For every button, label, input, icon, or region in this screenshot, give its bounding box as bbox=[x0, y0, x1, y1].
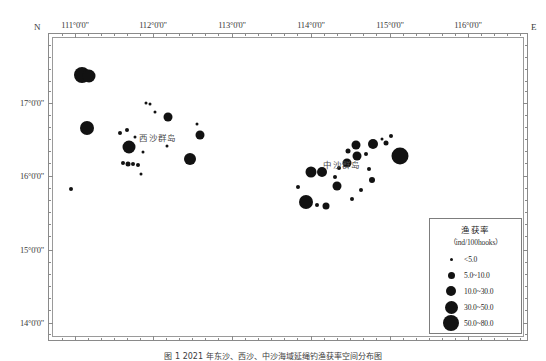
catch-rate-marker bbox=[350, 197, 354, 201]
tick-minor-bottom bbox=[271, 338, 272, 341]
catch-rate-marker bbox=[195, 122, 198, 125]
tick-minor-top bbox=[140, 33, 141, 36]
legend-label: <5.0 bbox=[464, 255, 477, 264]
tick-major-bottom bbox=[153, 336, 154, 341]
tick-minor-bottom bbox=[140, 338, 141, 341]
tick-minor-bottom bbox=[101, 338, 102, 341]
tick-minor-right bbox=[525, 151, 528, 152]
tick-minor-top bbox=[284, 33, 285, 36]
catch-rate-marker bbox=[139, 173, 142, 176]
legend-subtitle: （ind/100hooks） bbox=[430, 236, 521, 247]
tick-major-top bbox=[75, 33, 76, 38]
tick-minor-left bbox=[48, 310, 51, 311]
tick-minor-top bbox=[494, 33, 495, 36]
tick-minor-bottom bbox=[455, 338, 456, 341]
x-axis-tick-label: 114°0'0" bbox=[297, 20, 325, 30]
tick-minor-top bbox=[324, 33, 325, 36]
tick-major-right bbox=[523, 250, 528, 251]
tick-major-top bbox=[311, 33, 312, 38]
tick-minor-right bbox=[525, 45, 528, 46]
legend-symbol bbox=[438, 286, 464, 296]
catch-rate-marker bbox=[125, 162, 130, 167]
legend-label: 30.0~50.0 bbox=[464, 303, 493, 312]
tick-minor-top bbox=[127, 33, 128, 36]
x-axis-tick-label: 113°0'0" bbox=[218, 20, 246, 30]
catch-rate-marker bbox=[389, 134, 393, 138]
catch-rate-marker bbox=[305, 167, 316, 178]
tick-major-left bbox=[48, 250, 53, 251]
tick-minor-left bbox=[48, 115, 51, 116]
tick-major-left bbox=[48, 103, 53, 104]
catch-rate-marker bbox=[136, 163, 140, 167]
place-label-xisha-islands: 西沙群岛 bbox=[139, 131, 177, 143]
tick-minor-left bbox=[48, 45, 51, 46]
east-indicator: E bbox=[531, 22, 537, 32]
tick-major-right bbox=[523, 323, 528, 324]
tick-minor-right bbox=[525, 81, 528, 82]
tick-minor-bottom bbox=[324, 338, 325, 341]
circle-icon bbox=[443, 315, 459, 331]
y-axis-tick-label: 14°0'0" bbox=[10, 318, 44, 328]
tick-minor-bottom bbox=[363, 338, 364, 341]
tick-minor-bottom bbox=[245, 338, 246, 341]
x-axis-tick-label: 116°0'0" bbox=[454, 20, 482, 30]
tick-minor-bottom bbox=[297, 338, 298, 341]
catch-rate-marker bbox=[332, 182, 341, 191]
x-axis-tick-label: 112°0'0" bbox=[139, 20, 167, 30]
tick-minor-top bbox=[429, 33, 430, 36]
circle-icon bbox=[445, 301, 458, 314]
tick-minor-top bbox=[481, 33, 482, 36]
tick-minor-right bbox=[525, 115, 528, 116]
circle-icon bbox=[446, 286, 456, 296]
tick-minor-right bbox=[525, 163, 528, 164]
tick-minor-right bbox=[525, 274, 528, 275]
tick-minor-top bbox=[245, 33, 246, 36]
legend-row: 50.0~80.0 bbox=[430, 315, 521, 331]
figure-caption: 图 1 2021 年东沙、西沙、中沙海域延绳钓渔获率空间分布图 bbox=[0, 350, 546, 361]
tick-minor-bottom bbox=[192, 338, 193, 341]
catch-rate-marker bbox=[299, 195, 313, 209]
legend-entries: <5.05.0~10.010.0~30.030.0~50.050.0~80.0 bbox=[430, 251, 521, 331]
catch-rate-marker bbox=[383, 141, 388, 146]
tick-minor-left bbox=[48, 69, 51, 70]
tick-minor-top bbox=[62, 33, 63, 36]
catch-rate-marker bbox=[118, 131, 122, 135]
tick-minor-top bbox=[166, 33, 167, 36]
north-indicator: N bbox=[34, 22, 41, 32]
tick-minor-right bbox=[525, 127, 528, 128]
tick-minor-top bbox=[271, 33, 272, 36]
catch-rate-marker bbox=[123, 141, 136, 154]
catch-rate-marker bbox=[315, 203, 319, 207]
tick-minor-right bbox=[525, 57, 528, 58]
tick-minor-right bbox=[525, 188, 528, 189]
tick-minor-top bbox=[416, 33, 417, 36]
tick-minor-left bbox=[48, 224, 51, 225]
circle-icon bbox=[448, 272, 455, 279]
catch-rate-marker bbox=[134, 135, 137, 138]
tick-minor-left bbox=[48, 91, 51, 92]
tick-minor-bottom bbox=[442, 338, 443, 341]
catch-rate-marker bbox=[196, 131, 205, 140]
tick-minor-bottom bbox=[416, 338, 417, 341]
tick-minor-left bbox=[48, 127, 51, 128]
catch-rate-marker bbox=[148, 103, 151, 106]
tick-minor-top bbox=[192, 33, 193, 36]
tick-minor-bottom bbox=[88, 338, 89, 341]
y-axis-tick-label: 15°0'0" bbox=[10, 245, 44, 255]
tick-minor-bottom bbox=[166, 338, 167, 341]
tick-minor-left bbox=[48, 81, 51, 82]
tick-minor-left bbox=[48, 262, 51, 263]
catch-rate-marker bbox=[142, 151, 145, 154]
tick-major-bottom bbox=[75, 336, 76, 341]
tick-minor-bottom bbox=[507, 338, 508, 341]
tick-minor-top bbox=[350, 33, 351, 36]
legend-label: 5.0~10.0 bbox=[464, 271, 490, 280]
tick-minor-right bbox=[525, 334, 528, 335]
tick-minor-bottom bbox=[520, 338, 521, 341]
tick-minor-right bbox=[525, 224, 528, 225]
tick-minor-right bbox=[525, 262, 528, 263]
legend-row: 10.0~30.0 bbox=[430, 283, 521, 299]
tick-minor-top bbox=[520, 33, 521, 36]
tick-major-bottom bbox=[390, 336, 391, 341]
tick-minor-bottom bbox=[62, 338, 63, 341]
